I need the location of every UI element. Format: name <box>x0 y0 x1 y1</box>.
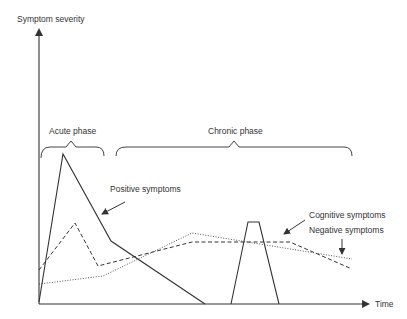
negative-symptoms-line <box>39 233 352 284</box>
positive-symptoms-line <box>39 154 205 304</box>
y-axis-label: Symptom severity <box>17 14 85 24</box>
acute-phase-label: Acute phase <box>49 126 97 136</box>
cognitive-symptoms-label: Cognitive symptoms <box>309 210 386 220</box>
x-axis-label: Time <box>375 299 394 309</box>
positive-symptoms-relapse-line <box>231 222 279 304</box>
positive-symptoms-label: Positive symptoms <box>110 184 181 194</box>
chronic-phase-label: Chronic phase <box>208 126 263 136</box>
symptom-course-diagram: Symptom severity Time Acute phase Chroni… <box>0 0 407 319</box>
cognitive-symptoms-line <box>39 223 352 270</box>
negative-symptoms-label: Negative symptoms <box>309 225 384 235</box>
positive-arrow-icon <box>102 202 125 214</box>
acute-phase-brace: Acute phase <box>41 126 104 158</box>
chronic-phase-brace: Chronic phase <box>116 126 352 156</box>
cognitive-arrow-icon <box>284 220 305 234</box>
